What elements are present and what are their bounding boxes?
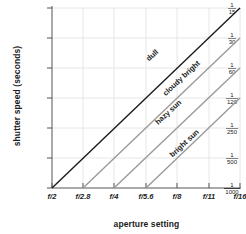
plot-area: dull cloudy bright hazy sun bright sun	[0, 0, 246, 234]
series-line-bright-sun	[146, 98, 240, 188]
exposure-chart: shutter speed (seconds) 1 15 1 30 1 60 1…	[0, 0, 246, 234]
series-label-hazy-sun: hazy sun	[153, 98, 183, 127]
y-axis-ticks	[47, 8, 52, 188]
series-label-dull: dull	[144, 47, 160, 63]
